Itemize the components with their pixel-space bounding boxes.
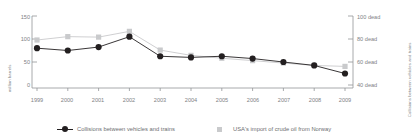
data-point-marker[interactable]	[188, 54, 194, 60]
legend-item-crude-oil[interactable]: USA's import of crude oil from Norway	[213, 123, 331, 135]
square-marker-icon	[213, 124, 229, 134]
line-circle-marker-icon	[57, 124, 73, 134]
legend-label-crude-oil: USA's import of crude oil from Norway	[233, 126, 331, 132]
data-point-marker[interactable]	[96, 44, 102, 50]
data-point-marker[interactable]	[157, 53, 163, 59]
data-point-marker[interactable]	[250, 55, 256, 61]
data-point-marker[interactable]	[34, 45, 40, 51]
x-axis-tickmarks	[37, 88, 345, 91]
data-point-marker[interactable]	[158, 47, 163, 52]
data-point-marker[interactable]	[34, 37, 39, 42]
data-point-marker[interactable]	[127, 29, 132, 34]
data-point-marker[interactable]	[96, 35, 101, 40]
data-point-marker[interactable]	[65, 47, 71, 53]
chart-legend: Collisions between vehicles and trains U…	[0, 121, 412, 139]
data-point-marker[interactable]	[311, 62, 317, 68]
dual-axis-line-chart: million barrels Collisions between vehic…	[0, 0, 412, 139]
series-collisions-vehicles-trains	[34, 34, 348, 77]
axis-lines	[32, 16, 353, 88]
data-point-marker[interactable]	[280, 59, 286, 65]
legend-item-collisions[interactable]: Collisions between vehicles and trains	[57, 123, 175, 135]
data-point-marker[interactable]	[65, 34, 70, 39]
data-point-marker[interactable]	[219, 53, 225, 59]
legend-label-collisions: Collisions between vehicles and trains	[77, 126, 175, 132]
data-point-marker[interactable]	[342, 64, 347, 69]
data-point-marker[interactable]	[126, 34, 132, 40]
data-point-marker[interactable]	[342, 70, 348, 76]
plot-area	[0, 0, 412, 139]
